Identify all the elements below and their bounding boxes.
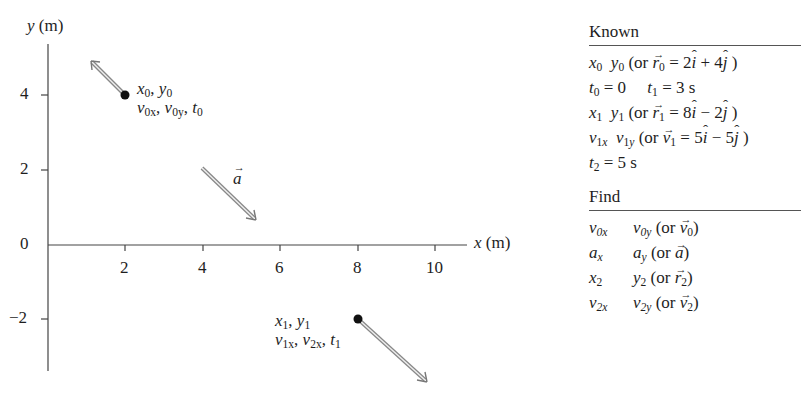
known-row-r0: x0 y0 (or r0 = 2i + 4j ) bbox=[589, 50, 801, 75]
point-0-label: x0, y0 v0x, v0y, t0 bbox=[137, 79, 203, 117]
known-find-panel: Known x0 y0 (or r0 = 2i + 4j ) t0 = 0 t1… bbox=[589, 22, 801, 315]
x-tick-label: 4 bbox=[198, 258, 207, 278]
y-axis-label: y (m) bbox=[27, 16, 63, 36]
find-row: v2xv2y (or v2) bbox=[589, 290, 801, 315]
find-row: axay (or a) bbox=[589, 240, 801, 265]
x-ticks bbox=[125, 245, 435, 251]
known-row-t2: t2 = 5 s bbox=[589, 150, 801, 175]
y-ticks bbox=[41, 95, 48, 319]
y-tick-label: −2 bbox=[9, 308, 27, 328]
point-0-marker bbox=[121, 91, 130, 100]
acceleration-arrow bbox=[202, 168, 256, 220]
x-axis-label: x (m) bbox=[474, 233, 510, 253]
acceleration-label: a bbox=[233, 169, 242, 189]
y-tick-label: 4 bbox=[20, 84, 29, 104]
velocity-arrow-0 bbox=[91, 61, 125, 95]
x-tick-label: 8 bbox=[353, 258, 362, 278]
find-row: v0xv0y (or v0) bbox=[589, 215, 801, 240]
point-1-marker bbox=[354, 315, 363, 324]
point-1-label: x1, y1 v1x, v2x, t1 bbox=[275, 311, 341, 349]
known-row-v1: v1x v1y (or v1 = 5i − 5j ) bbox=[589, 125, 801, 150]
motion-diagram: y (m) x (m) 4 2 0 −2 2 4 6 8 10 x0, y0 v… bbox=[0, 0, 560, 393]
x-tick-label: 10 bbox=[426, 258, 443, 278]
x-tick-label: 6 bbox=[275, 258, 284, 278]
y-tick-label: 2 bbox=[20, 159, 29, 179]
velocity-arrow-1 bbox=[358, 319, 427, 382]
find-title: Find bbox=[589, 187, 801, 211]
known-row-r1: x1 y1 (or r1 = 8i − 2j ) bbox=[589, 100, 801, 125]
find-row: x2y2 (or r2) bbox=[589, 265, 801, 290]
y-tick-label: 0 bbox=[20, 234, 29, 254]
x-tick-label: 2 bbox=[120, 258, 129, 278]
